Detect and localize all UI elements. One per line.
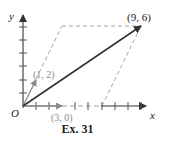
dashed-construction-lines (36, 26, 141, 106)
y-axis-label: y (8, 10, 14, 22)
vector-9-6 (23, 26, 141, 106)
vector-label-9-6: (9, 6) (127, 11, 151, 24)
dashed-line-right (102, 26, 141, 106)
figure-caption: Ex. 31 (0, 122, 155, 137)
x-axis-label: x (149, 109, 155, 121)
vector-label-1-2: (1, 2) (33, 69, 55, 81)
y-axis (19, 15, 27, 108)
origin-label: O (11, 107, 19, 119)
